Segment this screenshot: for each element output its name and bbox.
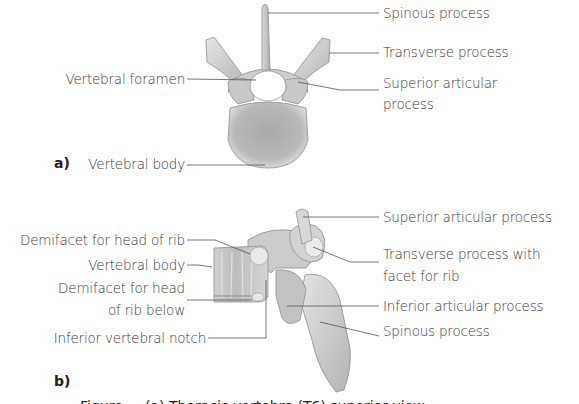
label-demifacet-below-line2: of rib below [108, 302, 185, 318]
label-superior-articular-a-line2: process [383, 96, 433, 112]
label-transverse-process-a: Transverse process [383, 44, 508, 60]
label-demifacet-below-line1: Demifacet for head [58, 280, 185, 296]
figure-caption: Figure ... (a) Thoracic vertebra (T6) su… [80, 396, 442, 404]
label-inferior-vertebral-notch: Inferior vertebral notch [54, 330, 206, 346]
label-superior-articular-process-b: Superior articular process [383, 209, 552, 225]
label-vertebral-body-a: Vertebral body [88, 156, 185, 172]
label-superior-articular-a-line1: Superior articular [383, 75, 497, 91]
label-transverse-facet-line2: facet for rib [383, 268, 459, 284]
label-inferior-articular-process: Inferior articular process [383, 298, 543, 314]
label-transverse-facet-line1: Transverse process with [383, 246, 540, 262]
label-spinous-process-b: Spinous process [383, 323, 489, 339]
panel-a-marker: a) [54, 155, 70, 171]
panel-b-marker: b) [54, 373, 70, 389]
label-vertebral-foramen: Vertebral foramen [65, 71, 185, 87]
vertebra-superior-view [206, 4, 330, 168]
label-spinous-process-a: Spinous process [383, 5, 489, 21]
label-demifacet-head-of-rib: Demifacet for head of rib [20, 232, 185, 248]
label-vertebral-body-b: Vertebral body [88, 257, 185, 273]
vertebra-lateral-view [214, 209, 350, 392]
